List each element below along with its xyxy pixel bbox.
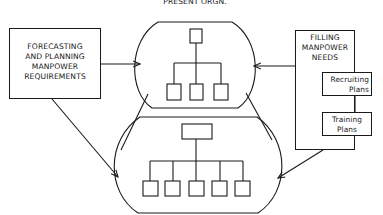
forecasting-line-2: AND PLANNING [10,52,100,62]
forecasting-line-3: MANPOWER [10,62,100,72]
forecasting-line-1: FORECASTING [10,42,100,52]
present-org-head-node [190,29,202,43]
training-plans-box: Training Plans [322,112,372,136]
present-org-oval [135,22,256,108]
training-plans-label: Training Plans [323,115,371,134]
training-line-1: Training [323,115,371,125]
filling-line-1: FILLING [296,33,354,43]
present-org-child-node [167,84,181,100]
oval-connector-left [121,94,148,150]
filling-needs-label: FILLING MANPOWER NEEDS [296,33,354,63]
present-org-child-node [190,84,203,100]
forecasting-line-4: REQUIREMENTS [10,72,100,82]
recruiting-line-2: Plans [323,85,369,95]
forecasting-label: FORECASTING AND PLANNING MANPOWER REQUIR… [10,42,100,82]
filling-line-3: NEEDS [296,53,354,63]
recruiting-plans-label: Recruiting Plans [323,75,371,94]
recruiting-line-1: Recruiting [323,75,369,85]
future-org-child-node [235,181,250,196]
future-org-child-node [212,181,227,196]
training-line-2: Plans [323,125,371,135]
forecasting-box: FORECASTING AND PLANNING MANPOWER REQUIR… [9,28,101,99]
future-org-head-node [182,124,212,139]
arrow-filling-to-future [278,150,323,178]
arrow-forecast-to-future [52,99,118,177]
future-org-oval [114,117,282,213]
present-org-child-node [214,84,228,100]
diagram-title: PRESENT ORGN. [145,0,245,7]
recruiting-plans-box: Recruiting Plans [322,72,372,96]
future-org-child-node [143,181,158,196]
future-org-child-node [165,181,180,196]
filling-line-2: MANPOWER [296,43,354,53]
future-org-child-node [189,181,204,196]
